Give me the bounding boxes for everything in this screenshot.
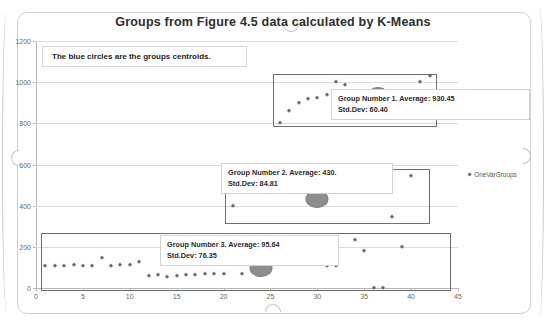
legend-marker-icon (467, 172, 472, 177)
frame-notch-left (11, 150, 19, 166)
callout-line-stddev: Std.Dev: 76.35 (167, 251, 332, 262)
gridline (36, 41, 458, 42)
chart-page: Groups from Figure 4.5 data calculated b… (0, 0, 546, 323)
y-tick-mark (33, 123, 36, 124)
x-tick-label: 0 (34, 293, 38, 300)
legend-label: OneVarGroups (474, 171, 517, 178)
x-tick-label: 20 (220, 293, 228, 300)
group-callout-1: Group Number 1. Average: 930.45Std.Dev: … (331, 89, 530, 120)
y-tick-label: 400 (19, 202, 31, 209)
x-tick-label: 40 (407, 293, 415, 300)
x-tick-label: 5 (81, 293, 85, 300)
x-tick-label: 35 (360, 293, 368, 300)
y-tick-mark (33, 82, 36, 83)
chart-legend: OneVarGroups (468, 171, 517, 178)
y-tick-mark (33, 41, 36, 42)
y-tick-label: 0 (27, 285, 31, 292)
y-tick-label: 1200 (15, 38, 31, 45)
x-tick-label: 30 (313, 293, 321, 300)
callout-line-average: Group Number 3. Average: 95.64 (167, 240, 280, 249)
x-tick-label: 45 (454, 293, 462, 300)
page-edge-right (533, 8, 544, 316)
y-tick-mark (33, 165, 36, 166)
callout-line-average: Group Number 2. Average: 430. (228, 168, 337, 177)
y-tick-label: 200 (19, 243, 31, 250)
group-callout-2: Group Number 2. Average: 430.Std.Dev: 84… (221, 163, 393, 194)
callout-line-stddev: Std.Dev: 60.40 (338, 105, 523, 116)
y-tick-label: 1000 (15, 79, 31, 86)
x-tick-label: 25 (267, 293, 275, 300)
x-tick-label: 10 (126, 293, 134, 300)
callout-line-average: Group Number 1. Average: 930.45 (338, 94, 455, 103)
y-tick-label: 800 (19, 120, 31, 127)
x-tick-mark (458, 288, 459, 291)
callout-line-stddev: Std.Dev: 84.81 (228, 179, 386, 190)
x-tick-label: 15 (173, 293, 181, 300)
chart-title: Groups from Figure 4.5 data calculated b… (0, 15, 546, 29)
y-tick-mark (33, 206, 36, 207)
y-tick-mark (33, 247, 36, 248)
x-tick-mark (36, 288, 37, 291)
group-callout-3: Group Number 3. Average: 95.64Std.Dev: 7… (160, 235, 339, 266)
y-tick-label: 600 (19, 161, 31, 168)
